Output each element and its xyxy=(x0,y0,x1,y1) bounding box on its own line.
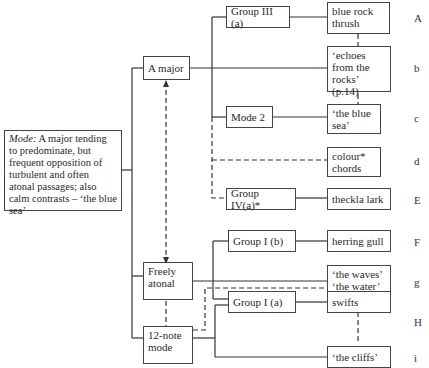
item-the-cliffs: ‘the cliffs’ xyxy=(327,346,391,368)
root-text: A major tending to predominate, but freq… xyxy=(9,133,117,216)
group-i-b: Group I (b) xyxy=(228,230,296,252)
letter-a: A xyxy=(414,12,422,24)
item-theckla-lark: theckla lark xyxy=(327,188,391,210)
mode-freely-atonal: Freely atonal xyxy=(143,262,193,300)
letter-b: b xyxy=(414,62,420,74)
root-mode-box: Mode: A major tending to predominate, bu… xyxy=(4,130,122,211)
item-swifts: swifts xyxy=(327,291,391,313)
item-blue-rock-thrush: blue rock thrush xyxy=(327,2,390,34)
root-label: Mode: xyxy=(9,133,36,144)
letter-i: i xyxy=(414,352,417,364)
group-mode-2: Mode 2 xyxy=(226,106,273,128)
letter-d: d xyxy=(414,155,420,167)
letter-g: g xyxy=(414,276,420,288)
item-echoes-from-rocks: ‘echoes from the rocks’ (p.14) xyxy=(327,46,391,92)
group-iii-a: Group III (a) xyxy=(226,6,290,28)
letter-c: c xyxy=(414,112,419,124)
item-blue-sea: ‘the blue sea’ xyxy=(327,104,381,134)
letter-h: H xyxy=(414,316,422,328)
letter-f: F xyxy=(414,236,420,248)
item-colour-chords: colour* chords xyxy=(327,147,381,177)
group-iv-a: Group IV(a)* xyxy=(226,188,296,210)
group-i-a: Group I (a) xyxy=(228,291,296,313)
mode-a-major: A major xyxy=(143,56,190,80)
mode-twelve-note: 12-note mode xyxy=(143,326,193,364)
item-herring-gull: herring gull xyxy=(327,230,391,252)
letter-e: E xyxy=(414,194,421,206)
